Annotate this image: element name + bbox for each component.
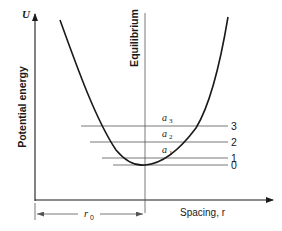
level-number-2: 2 [231,136,237,148]
amplitude-label-1: a 1 [162,144,173,157]
y-axis: U Potential energy [16,8,35,201]
y-axis-label: Potential energy [16,66,28,148]
svg-text:3: 3 [169,117,173,125]
equilibrium-line: Equilibrium [128,9,145,213]
level-number-3: 3 [231,120,237,132]
y-axis-symbol: U [22,8,31,20]
amplitude-label-2: a 2 [162,128,173,141]
svg-text:a: a [162,144,167,155]
svg-text:a: a [162,128,167,139]
x-axis: Spacing, r [35,200,273,218]
svg-text:2: 2 [169,133,173,141]
x-axis-label: Spacing, r [180,207,226,218]
r0-label: r [84,208,89,219]
equilibrium-label: Equilibrium [128,9,140,67]
potential-energy-diagram: U Potential energy Spacing, r Equilibriu… [0,0,282,231]
r0-dimension: r 0 [35,203,143,221]
svg-text:a: a [162,112,167,123]
potential-curve [60,17,228,165]
amplitude-label-3: a 3 [162,112,173,125]
r0-subscript: 0 [90,214,94,221]
level-number-0: 0 [231,159,237,171]
